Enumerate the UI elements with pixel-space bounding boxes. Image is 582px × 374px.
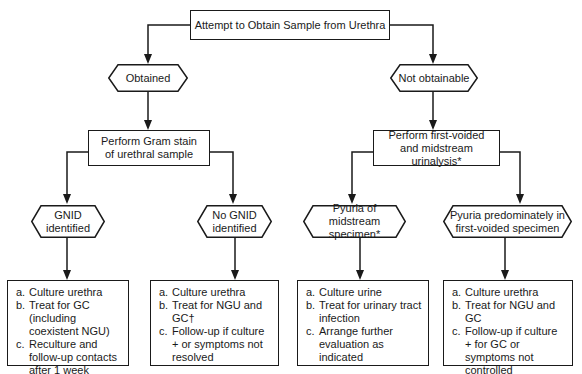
action-item: b.Treat for NGU and GC	[452, 299, 566, 325]
decision-label: No GNID identified	[209, 209, 261, 235]
item-text: Reculture and follow-up contacts after 1…	[29, 338, 122, 374]
action-item: a.Culture urethra	[159, 286, 272, 299]
item-key: b.	[306, 299, 319, 325]
root-label: Attempt to Obtain Sample from Urethra	[195, 19, 386, 32]
action-item: c.Follow-up if culture + or symptoms not…	[159, 325, 272, 364]
decision-label: Pyuria predominately in first-voided spe…	[449, 209, 567, 235]
decision-not-obtainable: Not obtainable	[390, 64, 478, 92]
item-key: b.	[159, 299, 172, 325]
actions-pyuria-midstream: a.Culture urine b.Treat for urinary trac…	[297, 280, 429, 366]
item-text: Treat for NGU and GC†	[172, 299, 272, 325]
item-text: Culture urethra	[172, 286, 272, 299]
step-label: Perform Gram stain of urethral sample	[95, 135, 203, 161]
step-urinalysis: Perform first-voided and midstream urina…	[373, 130, 500, 166]
item-key: a.	[452, 286, 465, 299]
actions-no-gnid-identified: a.Culture urethra b.Treat for NGU and GC…	[150, 280, 279, 366]
item-text: Culture urethra	[29, 286, 122, 299]
item-key: c.	[452, 325, 465, 374]
item-key: a.	[306, 286, 319, 299]
step-gram-stain: Perform Gram stain of urethral sample	[88, 130, 210, 166]
decision-gnid-identified: GNID identified	[31, 205, 105, 238]
item-key: b.	[16, 299, 29, 338]
item-key: b.	[452, 299, 465, 325]
item-text: Treat for GC (including coexistent NGU)	[29, 299, 122, 338]
action-item: a.Culture urine	[306, 286, 422, 299]
actions-gnid-identified: a.Culture urethra b.Treat for GC (includ…	[7, 280, 129, 366]
decision-label: Not obtainable	[399, 72, 470, 85]
item-text: Follow-up if culture + for GC or symptom…	[465, 325, 566, 374]
decision-label: Pyuria of midstream specimen*	[309, 202, 401, 241]
decision-pyuria-midstream: Pyuria of midstream specimen*	[303, 205, 406, 238]
decision-pyuria-first-voided: Pyuria predominately in first-voided spe…	[443, 205, 572, 238]
decision-label: Obtained	[126, 72, 171, 85]
item-text: Follow-up if culture + or symptoms not r…	[172, 325, 272, 364]
action-item: c.Arrange further evaluation as indicate…	[306, 325, 422, 364]
decision-obtained: Obtained	[108, 64, 188, 92]
item-text: Arrange further evaluation as indicated	[319, 325, 422, 364]
step-label: Perform first-voided and midstream urina…	[380, 129, 493, 168]
item-text: Culture urine	[319, 286, 422, 299]
action-item: a.Culture urethra	[16, 286, 122, 299]
action-item: a.Culture urethra	[452, 286, 566, 299]
item-key: c.	[16, 338, 29, 374]
item-key: a.	[159, 286, 172, 299]
actions-pyuria-first-voided: a.Culture urethra b.Treat for NGU and GC…	[443, 280, 573, 366]
action-item: c.Follow-up if culture + for GC or sympt…	[452, 325, 566, 374]
root-node: Attempt to Obtain Sample from Urethra	[190, 10, 390, 40]
item-text: Culture urethra	[465, 286, 566, 299]
item-key: c.	[159, 325, 172, 364]
action-item: b.Treat for GC (including coexistent NGU…	[16, 299, 122, 338]
action-item: c.Reculture and follow-up contacts after…	[16, 338, 122, 374]
action-item: b.Treat for urinary tract infection	[306, 299, 422, 325]
item-text: Treat for urinary tract infection	[319, 299, 422, 325]
item-key: c.	[306, 325, 319, 364]
decision-label: GNID identified	[43, 209, 93, 235]
action-item: b.Treat for NGU and GC†	[159, 299, 272, 325]
item-key: a.	[16, 286, 29, 299]
item-text: Treat for NGU and GC	[465, 299, 566, 325]
decision-no-gnid-identified: No GNID identified	[197, 205, 272, 238]
